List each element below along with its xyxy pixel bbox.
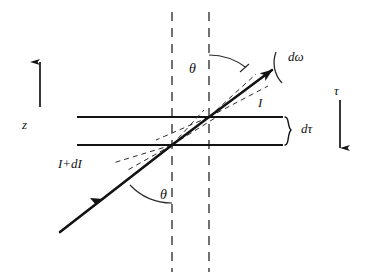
ray-inside-slab-segment [172, 117, 209, 145]
figure-canvas: z τ dω I dτ I+dI θ θ [0, 0, 369, 280]
brace-path [285, 117, 291, 145]
tau-axis-label: τ [334, 84, 339, 97]
thickness-brace [285, 117, 291, 145]
radiation-ray [60, 70, 272, 232]
domega-arc [274, 52, 282, 83]
incoming-intensity-label: I+dI [58, 157, 82, 170]
ray-outgoing-segment [209, 70, 272, 117]
angle-label-theta-bottom: θ [160, 188, 167, 202]
angle-arcs [130, 55, 249, 203]
solid-angle-label: dω [288, 50, 304, 63]
slab-boundaries [77, 117, 283, 145]
beam-cone-lower-d [113, 145, 172, 163]
angle-arc-theta-top [209, 55, 246, 68]
angle-arc-top-tick [240, 64, 249, 72]
outgoing-intensity-label: I [258, 96, 262, 109]
beam-cone-lower [113, 110, 215, 171]
diagram-svg [0, 0, 369, 280]
z-axis-label: z [22, 118, 27, 131]
solid-angle-arc [274, 52, 282, 83]
angle-label-theta-top: θ [189, 62, 196, 76]
optical-depth-element-label: dτ [301, 122, 312, 135]
